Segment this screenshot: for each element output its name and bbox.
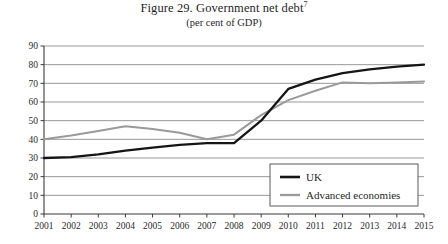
- legend: UKAdvanced economies: [270, 164, 418, 206]
- y-tick-label-80: 80: [29, 60, 39, 70]
- x-tick-label-2005: 2005: [143, 221, 162, 231]
- y-tick-label-90: 90: [29, 41, 39, 51]
- plot-area-wrapper: 0102030405060708090 20012002200320042005…: [0, 0, 448, 244]
- y-tick-label-10: 10: [29, 191, 39, 201]
- legend-label-advanced-economies: Advanced economies: [306, 189, 400, 201]
- x-axis-ticks-group: 2001200220032004200520062007200820092010…: [35, 214, 434, 231]
- x-tick-label-2012: 2012: [333, 221, 352, 231]
- y-tick-label-40: 40: [29, 135, 39, 145]
- y-tick-label-60: 60: [29, 97, 39, 107]
- x-tick-label-2001: 2001: [35, 221, 54, 231]
- y-tick-label-20: 20: [29, 172, 39, 182]
- x-tick-label-2003: 2003: [89, 221, 108, 231]
- x-tick-label-2007: 2007: [197, 221, 216, 231]
- line-chart-svg: 0102030405060708090 20012002200320042005…: [0, 0, 448, 244]
- y-tick-label-50: 50: [29, 116, 39, 126]
- figure-container: Figure 29. Government net debt7 (per cen…: [0, 0, 448, 244]
- y-tick-label-0: 0: [33, 209, 38, 219]
- x-tick-label-2009: 2009: [252, 221, 271, 231]
- x-tick-label-2006: 2006: [170, 221, 189, 231]
- x-tick-label-2002: 2002: [62, 221, 81, 231]
- x-tick-label-2011: 2011: [306, 221, 325, 231]
- series-line-uk: [44, 65, 424, 158]
- series-line-advanced-economies: [44, 81, 424, 139]
- data-series-group: [44, 65, 424, 158]
- y-tick-label-30: 30: [29, 153, 39, 163]
- y-axis-ticks-group: 0102030405060708090: [29, 41, 45, 219]
- x-tick-label-2008: 2008: [225, 221, 244, 231]
- x-tick-label-2015: 2015: [415, 221, 434, 231]
- x-tick-label-2013: 2013: [360, 221, 379, 231]
- x-tick-label-2010: 2010: [279, 221, 298, 231]
- x-tick-label-2014: 2014: [387, 221, 406, 231]
- legend-label-uk: UK: [306, 171, 322, 183]
- y-tick-label-70: 70: [29, 79, 39, 89]
- x-tick-label-2004: 2004: [116, 221, 135, 231]
